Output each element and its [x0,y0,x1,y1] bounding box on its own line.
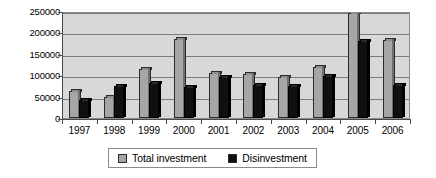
bar-side-face [193,85,196,117]
x-tick-mark [97,120,98,124]
bar-2005-total-investment [348,13,358,118]
x-tick-label-2003: 2003 [271,125,306,137]
bar-1997-disinvestment [79,100,89,118]
bar-2003-disinvestment [288,86,298,118]
x-tick-mark [271,120,272,124]
bar-2004-total-investment [313,67,323,118]
x-tick-label-1999: 1999 [132,125,167,137]
bar-side-face [297,84,300,117]
x-tick-label-1997: 1997 [62,125,97,137]
y-tick-mark [58,55,62,56]
bar-2002-disinvestment [253,85,263,118]
y-axis: 050000100000150000200000250000 [0,0,60,178]
y-tick-label: 0 [4,114,60,124]
y-tick-mark [58,76,62,77]
bar-2006-total-investment [383,40,393,118]
y-tick-label: 200000 [4,28,60,38]
bar-2005-disinvestment [358,41,368,118]
bar-2004-disinvestment [323,76,333,118]
bar-1997-total-investment [69,91,79,118]
x-tick-label-2004: 2004 [306,125,341,137]
x-tick-label-1998: 1998 [97,125,132,137]
bar-1999-total-investment [139,69,149,118]
chart-legend: Total investment Disinvestment [108,148,317,168]
bar-side-face [123,84,126,117]
bar-side-face [158,81,161,117]
x-tick-label-2006: 2006 [375,125,410,137]
legend-label-disinvestment: Disinvestment [242,152,307,164]
bar-1999-disinvestment [149,83,159,118]
legend-entry-disinvestment: Disinvestment [228,152,307,164]
bar-2006-disinvestment [393,85,403,118]
y-tick-label: 50000 [4,93,60,103]
legend-swatch-total-investment [118,154,127,163]
y-axis-line [62,12,63,120]
bar-1998-disinvestment [114,86,124,118]
bar-2003-total-investment [278,77,288,118]
x-tick-mark [306,120,307,124]
y-tick-label: 250000 [4,7,60,17]
bar-2000-total-investment [174,39,184,118]
legend-swatch-disinvestment [228,154,237,163]
x-tick-mark [201,120,202,124]
x-tick-mark [236,120,237,124]
plot-area [62,12,410,119]
bar-chart: 050000100000150000200000250000 199719981… [0,0,436,178]
legend-label-total-investment: Total investment [132,152,206,164]
x-tick-label-2002: 2002 [236,125,271,137]
bar-1998-total-investment [104,97,114,118]
bar-2002-total-investment [243,74,253,118]
x-tick-label-2001: 2001 [201,125,236,137]
x-tick-mark [166,120,167,124]
bar-2001-disinvestment [219,77,229,118]
bar-side-face [88,98,91,117]
y-tick-mark [58,33,62,34]
bar-side-face [402,83,405,117]
y-tick-mark [58,98,62,99]
bar-side-face [228,75,231,117]
x-tick-mark [375,120,376,124]
x-tick-mark [132,120,133,124]
legend-entry-total-investment: Total investment [118,152,206,164]
y-tick-label: 100000 [4,71,60,81]
bar-side-face [262,83,265,117]
x-tick-mark [340,120,341,124]
x-tick-label-2000: 2000 [166,125,201,137]
bar-2001-total-investment [209,73,219,118]
y-tick-label: 150000 [4,50,60,60]
y-tick-mark [58,12,62,13]
x-tick-label-2005: 2005 [340,125,375,137]
bar-side-face [367,39,370,117]
x-tick-mark [62,120,63,124]
bar-side-face [332,74,335,117]
x-tick-mark [410,120,411,124]
bar-2000-disinvestment [184,87,194,118]
